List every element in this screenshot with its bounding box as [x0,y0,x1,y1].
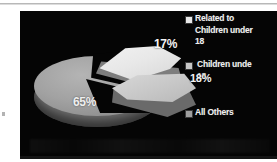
legend-label: All Others [195,107,277,119]
scan-artifact-speck [2,112,5,116]
pie-label-18-percent: 18% [190,72,211,84]
legend-label: Related to Children under 18 [195,13,277,48]
pie-label-17-percent: 17% [154,37,177,51]
legend-swatch-icon [185,16,193,24]
legend-swatch-icon [185,110,193,118]
chart-legend: Related to Children under 18 Children un… [184,11,277,131]
panel-bottom-edge [20,156,277,159]
legend-swatch-icon [185,62,193,70]
pie-chart-graphic: 17% 65% [26,23,198,147]
scan-artifact-band [30,139,270,153]
pie-label-65-percent: 65% [73,95,96,109]
top-rule-divider-secondary [0,4,277,5]
chart-image: 17% 65% 18% Related to Children under 18… [0,0,277,162]
